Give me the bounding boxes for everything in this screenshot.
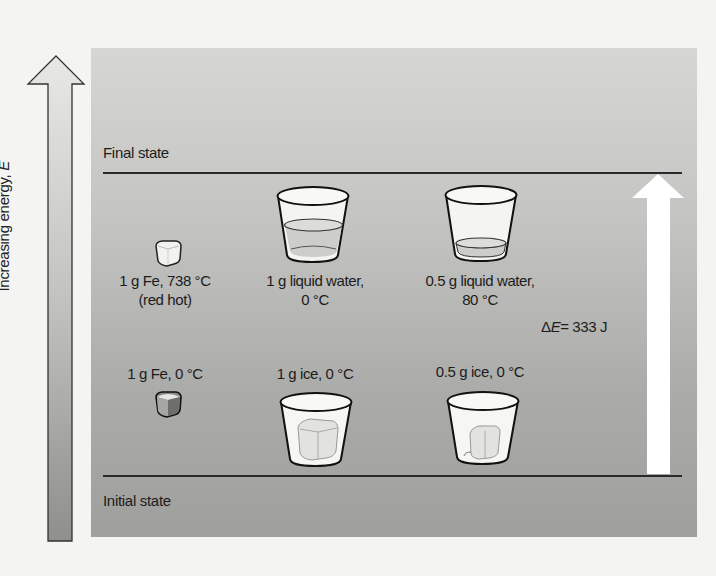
caption-line: 1 g liquid water, [240,271,390,290]
iron-cube-icon [154,240,184,268]
glass-ice-icon [278,391,358,471]
glass-small-ice-icon [445,390,525,470]
delta-symbol: Δ [541,318,551,335]
item-caption-water-1g: 1 g liquid water, 0 °C [240,271,390,309]
item-caption-ice-1g: 1 g ice, 0 °C [240,364,390,383]
glass-low-water-icon [443,184,523,264]
caption-line: 0.5 g ice, 0 °C [410,362,550,381]
glass-full-water-icon [275,185,355,265]
energy-symbol: E [551,318,561,335]
item-caption-water-half: 0.5 g liquid water, 80 °C [400,271,560,309]
caption-line: 1 g Fe, 738 °C [100,271,230,290]
caption-line: 1 g ice, 0 °C [240,364,390,383]
item-caption-fe-cold: 1 g Fe, 0 °C [100,364,230,383]
iron-cube-icon [154,391,184,419]
caption-line: 0.5 g liquid water, [400,271,560,290]
caption-line: 1 g Fe, 0 °C [100,364,230,383]
caption-line: 80 °C [400,290,560,309]
caption-line: (red hot) [100,290,230,309]
item-caption-fe-hot: 1 g Fe, 738 °C (red hot) [100,271,230,309]
caption-line: 0 °C [240,290,390,309]
energy-change-value: = 333 J [560,318,607,335]
energy-change-label: ΔE= 333 J [541,318,607,335]
item-caption-ice-half: 0.5 g ice, 0 °C [410,362,550,381]
